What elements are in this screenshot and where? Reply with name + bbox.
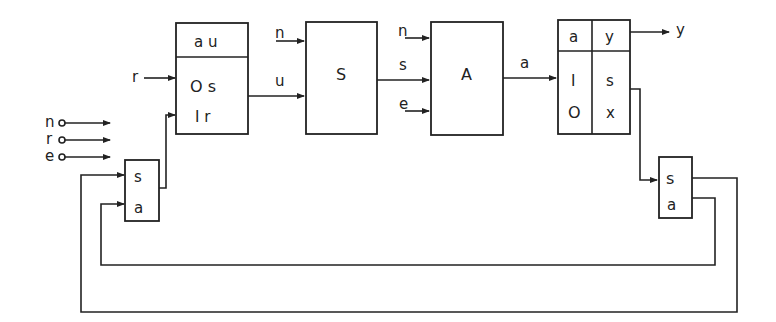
output-table-left-row-2: O: [568, 103, 581, 122]
external-input-e-label: e: [45, 147, 54, 165]
left-selector-row-s: s: [134, 168, 142, 186]
output-table-header-left: a: [569, 28, 578, 46]
left-selector-to-input-table-line: [159, 115, 175, 188]
a-output-label: a: [520, 54, 529, 72]
right-selector-row-a: a: [667, 196, 676, 214]
s-to-a-label: s: [399, 56, 407, 74]
terminal-icon: [59, 137, 65, 143]
left-selector-block: s a: [125, 160, 159, 221]
input-table-row-1: O s: [190, 77, 216, 96]
u-label: u: [275, 72, 285, 90]
a-block: A: [431, 22, 503, 135]
input-table-r-label: r: [132, 68, 139, 86]
output-table-right-row-2: x: [606, 104, 615, 122]
input-table-block: a u O s I r: [176, 23, 248, 134]
left-selector-row-a: a: [134, 199, 143, 217]
s-block: S: [306, 22, 377, 134]
output-table-left-row-1: I: [571, 72, 575, 90]
y-output-label: y: [676, 21, 685, 39]
output-to-right-selector-line: [630, 89, 657, 180]
external-input-r-label: r: [46, 130, 53, 148]
s-block-label: S: [336, 65, 346, 84]
right-selector-row-s: s: [666, 169, 674, 188]
right-selector-block: s a: [659, 157, 692, 218]
block-diagram: n r e a u O s I r r u n S s n e A: [0, 0, 776, 322]
external-input-n-label: n: [45, 113, 55, 131]
external-inputs: n r e: [45, 113, 110, 165]
terminal-icon: [59, 120, 65, 126]
input-table-header: a u: [194, 33, 217, 51]
outer-feedback-s-line: [81, 175, 737, 312]
output-table-block: a y I O s x: [558, 20, 630, 134]
input-table-row-2: I r: [195, 108, 211, 126]
a-block-label: A: [461, 65, 472, 84]
output-table-header-right: y: [605, 28, 614, 46]
output-table-right-row-1: s: [606, 72, 614, 90]
inner-feedback-a-line: [101, 198, 715, 265]
terminal-icon: [59, 154, 65, 160]
s-block-n-label: n: [275, 24, 285, 42]
